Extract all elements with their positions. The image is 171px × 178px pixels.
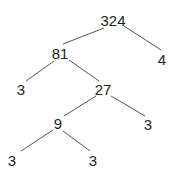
node-81: 81: [52, 46, 69, 61]
tree-edges: [0, 0, 171, 178]
node-4: 4: [158, 52, 166, 67]
tree-edge: [21, 130, 53, 151]
node-27: 27: [95, 82, 112, 97]
node-3-right: 3: [144, 117, 152, 132]
tree-edge: [63, 28, 104, 44]
tree-edge: [124, 26, 161, 50]
node-3-left: 3: [17, 82, 25, 97]
tree-edge: [111, 96, 145, 116]
node-9: 9: [54, 116, 62, 131]
tree-edge: [26, 61, 54, 81]
node-3-bottom-left: 3: [8, 153, 16, 168]
tree-edge: [63, 131, 90, 151]
node-324: 324: [100, 13, 125, 28]
tree-edge: [64, 96, 96, 116]
factor-tree-diagram: 324 81 4 3 27 9 3 3 3: [0, 0, 171, 178]
tree-edge: [69, 60, 99, 81]
node-3-bottom-right: 3: [89, 153, 97, 168]
